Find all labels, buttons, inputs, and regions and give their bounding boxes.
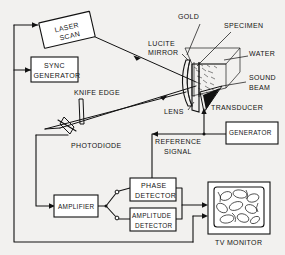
knife-edge-blade xyxy=(79,99,84,124)
beam-laser-to-specimen xyxy=(93,36,196,82)
transducer-label: TRANSDUCER xyxy=(211,104,263,111)
amplitude-detector-label-line1: AMPLITUDE xyxy=(132,212,171,219)
switch-contact-phase[interactable] xyxy=(115,190,119,194)
wire-switch-to-phase xyxy=(119,188,130,191)
lucite-mirror-label-line1: LUCITE xyxy=(148,40,175,47)
leader-gold xyxy=(187,24,200,55)
amplifier-label: AMPLIFIER xyxy=(58,203,95,210)
generator-label: GENERATOR xyxy=(229,129,272,136)
sound-beam-label-line1: SOUND xyxy=(249,74,276,81)
knife-edge-label: KNIFE EDGE xyxy=(74,89,120,96)
arrowhead-monitor-upper-input xyxy=(202,202,208,207)
lucite-mirror-label-line2: MIRROR xyxy=(148,49,179,56)
arrowhead-reference-left xyxy=(152,131,158,136)
arrowhead-beam-down xyxy=(133,56,141,61)
wire-amplitude-out xyxy=(176,205,182,219)
switch-contact-amplitude[interactable] xyxy=(115,216,119,220)
slam-schematic-diagram: LASER SCAN SYNC GENERATOR AMPLIFIER PHAS… xyxy=(0,0,285,255)
wire-switch-lower-blade xyxy=(106,206,117,218)
cell-right-face xyxy=(226,48,240,88)
sound-beam-label-line2: BEAM xyxy=(249,84,270,91)
figure-canvas: LASER SCAN SYNC GENERATOR AMPLIFIER PHAS… xyxy=(0,0,285,255)
arrowhead-sync-generator xyxy=(25,67,31,72)
knife-edge-photodiode-group xyxy=(58,99,84,134)
water-label: WATER xyxy=(249,50,275,57)
lens-label: LENS xyxy=(164,108,184,115)
specimen-label: SPECIMEN xyxy=(224,22,263,29)
leader-specimen xyxy=(197,32,231,66)
arrowhead-laser-scan xyxy=(32,22,38,27)
reference-signal-label-line1: REFERENCE xyxy=(155,138,201,145)
wire-photodiode-to-amplifier xyxy=(36,135,51,206)
amplitude-detector-label-line2: DETECTOR xyxy=(135,222,173,229)
junction-generator-tap xyxy=(203,133,206,136)
wire-switch-upper-blade xyxy=(106,192,117,206)
wire-phase-out xyxy=(176,188,203,205)
gold-label: GOLD xyxy=(178,13,199,20)
phase-detector-label-line2: DETECTOR xyxy=(135,192,176,199)
leader-water xyxy=(224,56,248,60)
phase-detector-label-line1: PHASE xyxy=(141,182,166,189)
leader-sound-beam xyxy=(222,82,246,86)
tv-monitor[interactable] xyxy=(208,182,270,234)
photodiode-label: PHOTODIODE xyxy=(71,142,121,149)
switch-pivot-node xyxy=(105,205,108,208)
tv-monitor-label: TV MONITOR xyxy=(215,239,262,246)
sync-generator-label-line1: SYNC xyxy=(44,62,65,69)
wiring-group xyxy=(14,22,226,242)
sync-generator-label-line2: GENERATOR xyxy=(34,72,81,79)
reference-signal-label-line2: SIGNAL xyxy=(164,148,192,155)
